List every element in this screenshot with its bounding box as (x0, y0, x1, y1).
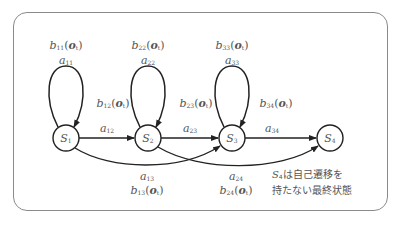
note-line-1: S4は自己遷移を (272, 168, 352, 184)
self-loop-s1-output-label: b11(ot) (49, 40, 82, 51)
edge-s3-s4-transition-label: a34 (265, 123, 279, 134)
self-loop-s3-output-label: b33(ot) (215, 40, 248, 51)
edge-s2-s4-output-label: b24(ot) (219, 185, 252, 196)
note-line-2: 持たない最終状態 (272, 184, 352, 198)
state-s4-label: S4 (324, 133, 335, 144)
state-s3-label: S3 (226, 133, 237, 144)
edge-s1-s2-transition-label: a12 (100, 123, 114, 134)
edge-s1-s2-output-label: b12(ot) (96, 98, 129, 109)
self-loop-s3-transition-label: a33 (225, 55, 239, 66)
self-loop-s1 (49, 66, 83, 127)
self-loop-s1-transition-label: a11 (59, 55, 73, 66)
edge-s2-s3-transition-label: a23 (183, 123, 197, 134)
edge-s1-s3-transition-label: a13 (140, 171, 154, 182)
self-loop-s2-transition-label: a22 (141, 55, 155, 66)
edge-s1-s3-output-label: b13(ot) (130, 185, 163, 196)
edge-s3-s4-output-label: b34(ot) (259, 98, 292, 109)
edge-s2-s4-transition-label: a24 (229, 171, 243, 182)
state-s2-label: S2 (142, 133, 153, 144)
edge-s2-s3-output-label: b23(ot) (179, 98, 212, 109)
self-loop-s2-output-label: b22(ot) (131, 40, 164, 51)
self-loop-s3 (215, 66, 249, 127)
self-loop-s2 (131, 66, 165, 127)
state-s1-label: S1 (60, 133, 71, 144)
final-state-note: S4は自己遷移を 持たない最終状態 (272, 168, 352, 198)
